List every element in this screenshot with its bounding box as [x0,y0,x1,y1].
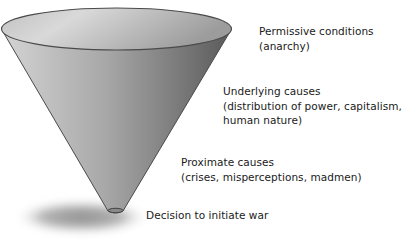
underlying-detail-line2: human nature) [223,113,402,128]
cone-rim-opening [2,8,232,50]
permissive-detail: (anarchy) [259,39,374,54]
decision-title: Decision to initiate war [146,208,268,223]
cone-shadow [14,200,150,234]
cone-tip [108,208,123,212]
permissive-title: Permissive conditions [259,24,374,39]
label-underlying-causes: Underlying causes (distribution of power… [223,84,402,128]
proximate-title: Proximate causes [181,155,362,170]
cone-body [2,30,231,213]
label-permissive-conditions: Permissive conditions (anarchy) [259,24,374,53]
label-decision-to-initiate-war: Decision to initiate war [146,208,268,223]
underlying-title: Underlying causes [223,84,402,99]
underlying-detail-line1: (distribution of power, capitalism, [223,99,402,114]
proximate-detail: (crises, misperceptions, madmen) [181,170,362,185]
label-proximate-causes: Proximate causes (crises, misperceptions… [181,155,362,184]
